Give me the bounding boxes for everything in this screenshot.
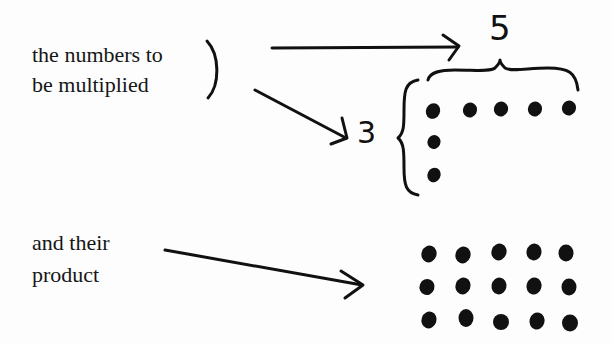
dot (419, 243, 439, 264)
dot (493, 314, 509, 330)
dot (419, 309, 439, 330)
columns-brace (428, 60, 578, 90)
dot (459, 309, 474, 327)
dot (525, 242, 543, 261)
grouping-paren (207, 41, 217, 98)
dot (425, 133, 443, 151)
factor-dots (423, 98, 578, 184)
dot (528, 311, 547, 331)
dot (489, 241, 509, 262)
product-dots (417, 241, 578, 331)
arrow-to-columns (272, 47, 458, 48)
dot (453, 244, 473, 265)
dot (425, 165, 443, 184)
dot (423, 101, 442, 121)
dot (525, 99, 544, 119)
dot (562, 315, 578, 332)
dot (453, 275, 473, 296)
diagram-drawing (0, 0, 612, 345)
dot (525, 276, 544, 296)
dot (490, 276, 508, 295)
dot (562, 279, 577, 296)
arrow-to-rows (255, 90, 346, 138)
dot (417, 277, 437, 297)
dot (559, 245, 574, 262)
dot (460, 100, 479, 120)
arrow-to-product (165, 250, 362, 285)
dot (559, 98, 578, 118)
dot (491, 99, 510, 119)
rows-brace (398, 80, 418, 195)
